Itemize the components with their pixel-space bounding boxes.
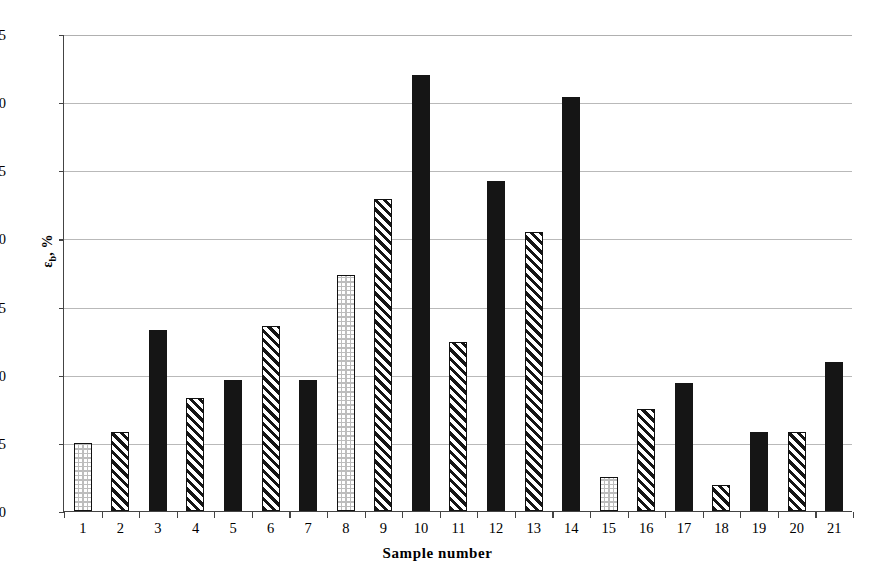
x-tick-label: 16 (629, 521, 663, 536)
bar-slot (102, 35, 140, 511)
bar (712, 485, 730, 511)
bar-slot (252, 35, 290, 511)
x-tick-mark (853, 512, 854, 518)
bar-slot (365, 35, 403, 511)
x-tick-mark (440, 512, 441, 518)
x-tick-label: 12 (479, 521, 513, 536)
y-tick-label: 20 (0, 232, 6, 247)
bar-slot (64, 35, 102, 511)
x-tick-mark (365, 512, 366, 518)
y-tick-label: 10 (0, 368, 6, 383)
bar (337, 275, 355, 511)
y-tick-label: 30 (0, 96, 6, 111)
bar-slot (289, 35, 327, 511)
bar-slot (628, 35, 666, 511)
bar (637, 409, 655, 511)
bar (750, 432, 768, 511)
y-tick-label: 5 (0, 437, 6, 452)
x-tick-mark (665, 512, 666, 518)
x-tick-mark (815, 512, 816, 518)
x-tick-label: 10 (404, 521, 438, 536)
x-tick-mark (515, 512, 516, 518)
bar-slot (778, 35, 816, 511)
x-tick-label: 20 (780, 521, 814, 536)
y-tick-label: 15 (0, 300, 6, 315)
bar-slot (477, 35, 515, 511)
bar (149, 330, 167, 511)
bar-slot (740, 35, 778, 511)
bar-slot (552, 35, 590, 511)
y-axis-title-subscript: b (47, 256, 58, 262)
x-tick-mark (703, 512, 704, 518)
x-tick-label: 14 (554, 521, 588, 536)
bar-slot (177, 35, 215, 511)
x-tick-label: 2 (103, 521, 137, 536)
bar (675, 383, 693, 511)
bar (74, 443, 92, 511)
bar (412, 75, 430, 511)
x-tick-mark (778, 512, 779, 518)
x-tick-label: 8 (329, 521, 363, 536)
bar-slot (402, 35, 440, 511)
bar-slot (139, 35, 177, 511)
x-tick-mark (552, 512, 553, 518)
x-tick-mark (289, 512, 290, 518)
bar (374, 199, 392, 511)
bar (111, 432, 129, 511)
x-tick-mark (477, 512, 478, 518)
x-tick-label: 6 (254, 521, 288, 536)
x-tick-label: 11 (442, 521, 476, 536)
bar-series (64, 35, 852, 511)
x-tick-label: 3 (141, 521, 175, 536)
bar-slot (515, 35, 553, 511)
bar (562, 97, 580, 511)
x-tick-label: 9 (366, 521, 400, 536)
bar-slot (214, 35, 252, 511)
x-tick-mark (177, 512, 178, 518)
bar-slot (815, 35, 853, 511)
x-tick-mark (102, 512, 103, 518)
bar (600, 477, 618, 511)
x-tick-mark (402, 512, 403, 518)
x-tick-label: 15 (592, 521, 626, 536)
bar (487, 181, 505, 511)
y-axis-title-suffix: , % (40, 234, 55, 256)
bar (525, 232, 543, 511)
y-tick-label: 35 (0, 28, 6, 43)
bar-slot (590, 35, 628, 511)
x-tick-label: 4 (179, 521, 213, 536)
bar (788, 432, 806, 511)
x-tick-mark (252, 512, 253, 518)
x-tick-label: 17 (667, 521, 701, 536)
bar (825, 362, 843, 511)
bar (299, 380, 317, 511)
x-tick-mark (64, 512, 65, 518)
x-tick-mark (214, 512, 215, 518)
bar-slot (440, 35, 478, 511)
bar-slot (665, 35, 703, 511)
x-tick-label: 18 (705, 521, 739, 536)
y-tick-label: 25 (0, 164, 6, 179)
bar (262, 326, 280, 511)
bar-chart: εb, % 123456789101112131415161718192021 … (0, 0, 875, 580)
x-tick-label: 7 (291, 521, 325, 536)
x-tick-label: 1 (66, 521, 100, 536)
bar-slot (327, 35, 365, 511)
x-tick-mark (327, 512, 328, 518)
x-tick-label: 21 (817, 521, 851, 536)
bar-slot (703, 35, 741, 511)
y-axis-title: εb, % (33, 211, 63, 291)
x-axis-title: Sample number (0, 545, 875, 562)
x-tick-mark (628, 512, 629, 518)
x-tick-mark (590, 512, 591, 518)
x-tick-label: 19 (742, 521, 776, 536)
x-tick-label: 13 (517, 521, 551, 536)
bar (224, 380, 242, 511)
x-tick-mark (139, 512, 140, 518)
bar (449, 342, 467, 511)
x-tick-mark (740, 512, 741, 518)
y-tick-label: 0 (0, 505, 6, 520)
x-tick-label: 5 (216, 521, 250, 536)
plot-area: 123456789101112131415161718192021 (63, 35, 852, 512)
y-axis-title-symbol: ε (40, 262, 55, 268)
